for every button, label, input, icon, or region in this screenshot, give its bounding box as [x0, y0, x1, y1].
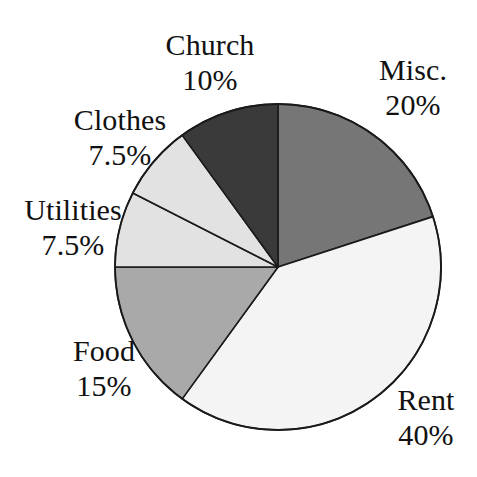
pie-label-rent-value: 40% [378, 418, 474, 453]
pie-label-utilities: Utilities 7.5% [8, 193, 138, 263]
pie-label-rent-name: Rent [378, 383, 474, 418]
pie-label-clothes-value: 7.5% [52, 138, 188, 173]
pie-chart: Church 10% Misc. 20% Clothes 7.5% Utilit… [0, 0, 477, 477]
pie-label-food-value: 15% [46, 369, 162, 404]
pie-label-church-value: 10% [146, 63, 274, 98]
pie-label-food: Food 15% [46, 334, 162, 404]
pie-label-clothes-name: Clothes [52, 103, 188, 138]
pie-label-misc-value: 20% [358, 88, 468, 123]
pie-label-church-name: Church [146, 28, 274, 63]
pie-label-utilities-name: Utilities [8, 193, 138, 228]
pie-label-clothes: Clothes 7.5% [52, 103, 188, 173]
pie-label-misc: Misc. 20% [358, 53, 468, 123]
pie-label-church: Church 10% [146, 28, 274, 98]
pie-label-utilities-value: 7.5% [8, 228, 138, 263]
pie-label-food-name: Food [46, 334, 162, 369]
pie-label-misc-name: Misc. [358, 53, 468, 88]
pie-label-rent: Rent 40% [378, 383, 474, 453]
